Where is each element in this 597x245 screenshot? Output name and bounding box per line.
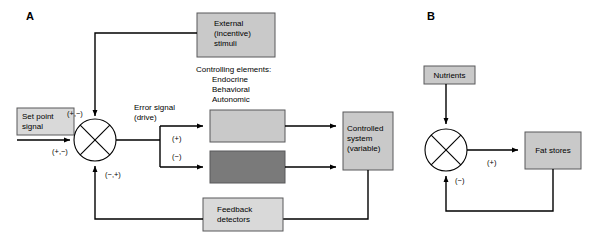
controlling-element-box-lower	[210, 151, 285, 183]
panel-a-letter: A	[26, 10, 34, 22]
set-point-line2: signal	[22, 122, 43, 131]
sign-top-label: (+,−)	[67, 109, 83, 118]
controlling-elements-item-2: Behavioral	[212, 85, 250, 94]
figure-canvas: A External (incentive) stimuli Controlli…	[0, 0, 597, 245]
feedback-detectors-to-summing-connector	[95, 200, 203, 219]
feedback-detectors-line1: Feedback	[217, 205, 253, 214]
branch-lower-sign: (−)	[172, 152, 182, 161]
controlled-system-line2: system	[347, 134, 373, 143]
panel-b-negative-sign: (−)	[455, 176, 465, 185]
controlled-system-line3: (variable)	[347, 144, 381, 153]
controlling-element-box-upper	[210, 110, 285, 142]
set-point-line1: Set point	[22, 112, 54, 121]
controlled-system-to-feedback-connector	[283, 170, 368, 219]
controlling-elements-item-1: Endocrine	[212, 75, 249, 84]
error-signal-line2: (drive)	[134, 113, 157, 122]
control-system-diagram: A External (incentive) stimuli Controlli…	[0, 0, 597, 245]
nutrients-label: Nutrients	[433, 71, 465, 80]
controlling-elements-item-3: Autonomic	[212, 95, 250, 104]
error-signal-line1: Error signal	[134, 103, 175, 112]
sign-left-label: (+,−)	[52, 147, 68, 156]
panel-b-letter: B	[427, 10, 435, 22]
external-stimuli-line2: (incentive)	[214, 29, 251, 38]
feedback-detectors-line2: detectors	[217, 215, 250, 224]
controlled-system-line1: Controlled	[347, 124, 383, 133]
controlling-elements-title: Controlling elements:	[196, 65, 271, 74]
branch-upper-sign: (+)	[172, 134, 182, 143]
panel-b-positive-sign: (+)	[487, 158, 497, 167]
external-stimuli-line1: External	[214, 19, 244, 28]
sign-bottom-label: (−,+)	[105, 170, 121, 179]
fat-stores-label: Fat stores	[535, 146, 571, 155]
external-stimuli-line3: stimuli	[214, 39, 237, 48]
